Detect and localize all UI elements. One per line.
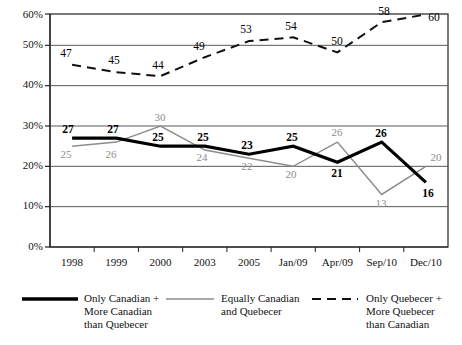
y-tick-label: 30% [23,119,43,131]
value-label: 44 [152,59,164,71]
value-label: 26 [106,148,118,160]
value-label: 16 [422,187,434,199]
legend-label-line3: than Quebecer [84,318,148,330]
y-tick-label: 0% [28,240,43,252]
value-label: 54 [285,20,297,32]
value-label: 50 [331,35,343,47]
x-axis-tick-labels: 1998 1999 2000 2003 2005 Jan/09 Apr/09 S… [61,256,442,268]
legend-label-line1: Only Quebecer + [366,292,442,304]
x-tick-label: 1998 [61,256,84,268]
value-label: 49 [193,40,205,52]
legend-label-line1: Equally Canadian [221,292,300,304]
y-tick-label: 50% [23,38,43,50]
y-tick-label: 10% [23,199,43,211]
value-label: 26 [375,127,387,139]
value-label: 24 [197,151,209,163]
value-label: 45 [108,54,120,66]
value-label: 21 [331,167,343,179]
chart-container: 47 45 44 49 53 54 50 58 60 27 27 25 25 2… [0,0,462,345]
value-label: 23 [241,139,253,151]
x-tick-label: Sep/10 [366,256,397,268]
value-label: 25 [197,131,209,143]
value-label: 22 [242,160,253,172]
y-tick-label: 40% [23,78,43,90]
legend-label-line1: Only Canadian + [84,292,159,304]
legend-label-line2: and Quebecer [221,305,282,317]
value-label: 26 [332,126,344,138]
value-label: 13 [376,197,388,209]
x-tick-label: 2005 [238,256,261,268]
x-tick-label: 2003 [194,256,217,268]
value-label: 58 [378,5,390,17]
value-label: 53 [240,23,252,35]
value-label: 60 [428,11,440,23]
legend-label-line3: than Canadian [366,318,430,330]
value-label: 25 [152,131,164,143]
x-tick-label: Dec/10 [410,256,442,268]
value-label: 27 [107,123,119,135]
x-tick-label: Jan/09 [279,256,308,268]
line-chart: 47 45 44 49 53 54 50 58 60 27 27 25 25 2… [0,0,462,345]
value-label: 27 [62,123,74,135]
y-tick-label: 60% [23,8,43,20]
value-label: 25 [61,148,73,160]
value-label: 30 [155,111,167,123]
x-tick-label: 2000 [150,256,173,268]
legend-label-line2: More Canadian [84,305,153,317]
value-label: 25 [286,131,298,143]
x-tick-label: Apr/09 [322,256,354,268]
value-label: 20 [431,151,443,163]
legend-label-line2: More Quebecer [366,305,435,317]
value-label: 47 [60,47,72,59]
value-label: 20 [286,168,298,180]
y-tick-label: 20% [23,159,43,171]
x-tick-label: 1999 [105,256,128,268]
